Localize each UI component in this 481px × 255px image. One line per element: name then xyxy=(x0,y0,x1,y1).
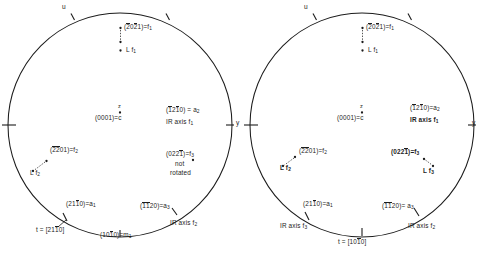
stereographic-projection-figure: u y z (2021)=f1 L f1 (0001)=c (1210) = a… xyxy=(0,0,481,255)
ir-axis-f1-left: IR axis f1 xyxy=(166,118,193,127)
pole-label-a3-left: (1120)=a3 xyxy=(140,202,170,211)
pole-label-a3-right: (1120)= a3 xyxy=(382,202,414,211)
pole-dot-f3-right xyxy=(423,158,425,160)
u-axis-label-left: u xyxy=(62,3,66,10)
pole-label-c-left: (0001)=c xyxy=(95,114,122,122)
tick-ne-right xyxy=(408,14,412,21)
ir-axis-f1-right: IR axis f1 xyxy=(410,116,439,125)
pole-label-f3-right: (0221)=f3 xyxy=(391,148,419,157)
tick-a3-right xyxy=(414,208,419,216)
pole-label-m1-left: (1010)=m1 xyxy=(100,231,131,240)
pole-dot-L-f1b-right xyxy=(361,49,363,51)
trace-label-t-left: t = [2110] xyxy=(36,226,64,234)
right-panel xyxy=(244,13,476,237)
u-axis-label-right: u xyxy=(304,3,308,10)
tick-a3-left xyxy=(172,208,177,215)
pole-label-a1-left: (2110)=a1 xyxy=(66,200,96,209)
pole-label-a1-right: (2110)=a1 xyxy=(303,200,333,209)
pole-dot-L-f1-left xyxy=(119,41,121,43)
pole-label-f2-right: (2201)=f2 xyxy=(299,147,327,156)
pole-label-a2-left: (1210) = a2 xyxy=(166,106,200,115)
pole-label-L-f2-left: L f2 xyxy=(30,169,40,178)
trace-label-t-right: t = [1010] xyxy=(338,238,366,246)
not-rotated-line1-left: not xyxy=(175,160,184,168)
pole-dot-f2-right xyxy=(294,156,296,158)
pole-dot-f3-left xyxy=(192,159,194,161)
tick-a1-left xyxy=(63,213,67,221)
not-rotated-line2-left: rotated xyxy=(170,169,191,177)
pole-label-f1-right: (2021)=f1 xyxy=(366,23,394,32)
pole-dot-L-f1b-left xyxy=(119,49,121,51)
tick-ne-left xyxy=(166,14,170,21)
ir-axis-f2-right: IR axis f2 xyxy=(408,222,435,231)
pole-label-f2-left: (2201)=f2 xyxy=(50,146,78,155)
pole-label-c-right: (0001)=c xyxy=(337,114,364,122)
pole-label-L-f2-right: L f2 xyxy=(280,164,291,173)
pole-label-f1-left: (2021)=f1 xyxy=(124,23,152,32)
tick-u-left xyxy=(71,14,75,21)
pole-dot-f1-right xyxy=(361,27,363,29)
z-axis-label-left: z xyxy=(118,103,121,109)
pole-dot-L-f1-right xyxy=(361,41,363,43)
pole-label-L-f1-left: L f1 xyxy=(126,46,136,55)
ir-axis-f2-left: IR axis f2 xyxy=(170,219,197,228)
projection-canvas xyxy=(0,0,481,255)
pole-label-a2-right: (1210)=a2 xyxy=(410,104,440,113)
pole-dot-f2-left xyxy=(45,160,47,162)
ir-axis-f3-right: IR axis f3 xyxy=(280,222,307,231)
left-panel xyxy=(2,13,234,237)
connector-f3-right xyxy=(426,160,433,165)
pole-dot-f1-left xyxy=(119,27,121,29)
pole-label-f3-left: (0221)=f3 xyxy=(166,150,194,159)
tick-a1-right xyxy=(305,212,309,220)
pole-label-L-f3-right: L f3 xyxy=(423,167,434,176)
y-axis-label-right: y xyxy=(472,119,475,126)
primitive-circle-left xyxy=(8,13,232,237)
z-axis-label-right: z xyxy=(360,103,363,109)
primitive-circle-right xyxy=(250,13,474,237)
tick-u-right xyxy=(313,14,317,21)
pole-label-L-f1-right: L f1 xyxy=(368,46,378,55)
y-axis-label-left: y xyxy=(236,119,239,126)
